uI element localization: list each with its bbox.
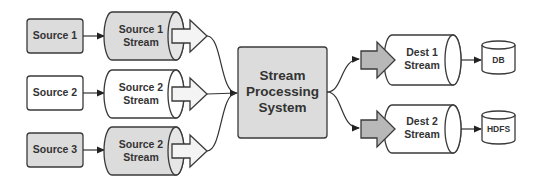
connector-processor-dest2	[327, 92, 359, 128]
source-1-label: Source 1	[33, 29, 78, 41]
source-box-2: Source 2	[27, 76, 83, 110]
source-box-3: Source 3	[27, 133, 83, 167]
connector-stream1-processor	[207, 36, 236, 93]
dest-stream-cylinder-1: Dest 1 Stream	[361, 35, 461, 85]
source-stream-3-line2: Stream	[123, 151, 159, 163]
stream-processing-diagram: Source 1 Source 2 Source 3 Source 1 Stre…	[0, 0, 540, 185]
processor-line3: System	[258, 100, 306, 115]
connector-stream3-processor	[207, 93, 236, 151]
source-stream-1-line1: Source 1	[119, 23, 164, 35]
dest-stream-2-line2: Stream	[404, 128, 440, 140]
source-stream-2-line1: Source 2	[119, 81, 164, 93]
hdfs-label: HDFS	[487, 124, 510, 134]
dest-stream-2-line1: Dest 2	[406, 115, 438, 127]
stream-processing-system-box: Stream Processing System	[238, 47, 327, 138]
dest-stream-cylinder-2: Dest 2 Stream	[361, 105, 461, 153]
processor-line1: Stream	[260, 68, 306, 83]
source-2-label: Source 2	[33, 86, 78, 98]
source-stream-cylinder-3: Source 2 Stream	[104, 127, 207, 175]
source-stream-3-line1: Source 2	[119, 138, 164, 150]
dest-stream-1-line2: Stream	[404, 59, 440, 71]
source-3-label: Source 3	[33, 143, 78, 155]
connector-processor-dest1	[327, 59, 359, 92]
source-box-1: Source 1	[27, 19, 83, 53]
db-label: DB	[492, 55, 504, 65]
dest-stream-1-line1: Dest 1	[406, 46, 438, 58]
source-stream-cylinder-1: Source 1 Stream	[104, 12, 207, 60]
processor-line2: Processing	[246, 84, 319, 99]
source-stream-cylinder-2: Source 2 Stream	[104, 70, 207, 118]
hdfs-cylinder: HDFS	[482, 111, 515, 144]
source-stream-2-line2: Stream	[123, 94, 159, 106]
source-stream-1-line2: Stream	[123, 36, 159, 48]
db-cylinder: DB	[482, 41, 515, 74]
